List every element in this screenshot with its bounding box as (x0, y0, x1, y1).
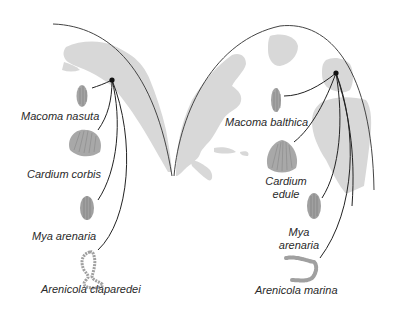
arenicola-marina-illustration (286, 257, 316, 280)
biogeography-diagram: Macoma nasuta Cardium corbis Mya arenari… (0, 0, 393, 314)
pacific-connector-lines (92, 80, 127, 250)
label-arenicola-claparedei: Arenicola claparedei (41, 283, 141, 296)
atlantic-globe (160, 26, 374, 194)
label-mya-arenaria-atl-line2: arenaria (274, 239, 324, 252)
label-macoma-nasuta: Macoma nasuta (21, 110, 99, 123)
central-america-landmass (190, 160, 212, 180)
label-mya-arenaria-atlantic: Mya arenaria (274, 226, 324, 252)
pacific-globe (53, 24, 172, 176)
connector-mya-arenaria (98, 80, 117, 200)
pacific-location-dot (109, 77, 114, 82)
macoma-balthica-illustration (271, 88, 281, 112)
africa-landmass (312, 97, 371, 194)
label-macoma-balthica: Macoma balthica (225, 116, 308, 129)
atlantic-location-dot (333, 70, 338, 75)
cardium-corbis-illustration (69, 130, 101, 157)
label-cardium-corbis: Cardium corbis (27, 168, 101, 181)
label-cardium-edule: Cardium edule (261, 175, 311, 201)
connector-macoma-nasuta (92, 80, 112, 88)
greenland-landmass (268, 34, 298, 66)
label-cardium-edule-line1: Cardium (261, 175, 311, 188)
caribbean-islands (214, 147, 249, 156)
label-mya-arenaria-atl-line1: Mya (274, 226, 324, 239)
label-cardium-edule-line2: edule (261, 188, 311, 201)
connector-cardium-corbis (98, 80, 112, 130)
label-arenicola-marina: Arenicola marina (255, 284, 338, 297)
label-mya-arenaria-pacific: Mya arenaria (32, 230, 96, 243)
